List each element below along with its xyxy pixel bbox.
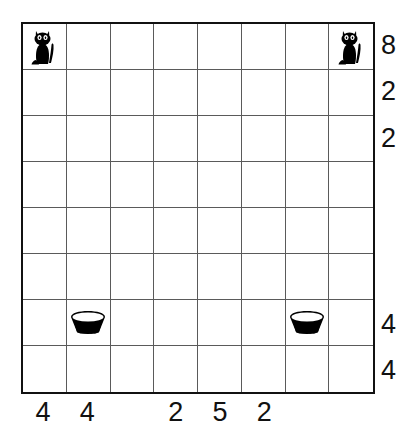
grid-cell-r7-c4[interactable] bbox=[154, 300, 198, 346]
bowl-icon bbox=[286, 300, 329, 345]
grid-cell-r3-c7[interactable] bbox=[286, 116, 330, 162]
grid-cell-r5-c7[interactable] bbox=[286, 208, 330, 254]
grid-cell-r8-c6[interactable] bbox=[242, 346, 286, 392]
row-clue-4 bbox=[377, 162, 417, 209]
grid-cell-r2-c5[interactable] bbox=[198, 70, 242, 116]
column-clue-list: 44252 bbox=[21, 396, 375, 440]
row-clue-list: 82244 bbox=[377, 22, 417, 394]
grid-cell-r4-c1[interactable] bbox=[23, 162, 67, 208]
puzzle-grid bbox=[21, 22, 375, 394]
grid-cell-r1-c4[interactable] bbox=[154, 24, 198, 70]
grid-cell-r7-c1[interactable] bbox=[23, 300, 67, 346]
grid-cell-r8-c3[interactable] bbox=[111, 346, 155, 392]
grid-cell-r8-c7[interactable] bbox=[286, 346, 330, 392]
grid-cell-r6-c2[interactable] bbox=[67, 254, 111, 300]
grid-cell-r7-c8[interactable] bbox=[329, 300, 373, 346]
grid-cell-r4-c4[interactable] bbox=[154, 162, 198, 208]
grid-cell-r4-c2[interactable] bbox=[67, 162, 111, 208]
grid-cell-r6-c5[interactable] bbox=[198, 254, 242, 300]
grid-cell-r8-c5[interactable] bbox=[198, 346, 242, 392]
grid-cell-r6-c7[interactable] bbox=[286, 254, 330, 300]
grid-cell-r6-c8[interactable] bbox=[329, 254, 373, 300]
grid-cell-r5-c8[interactable] bbox=[329, 208, 373, 254]
grid-cell-r5-c2[interactable] bbox=[67, 208, 111, 254]
grid-cell-r4-c5[interactable] bbox=[198, 162, 242, 208]
grid-cell-r2-c7[interactable] bbox=[286, 70, 330, 116]
grid-cell-r2-c1[interactable] bbox=[23, 70, 67, 116]
grid-cell-r8-c4[interactable] bbox=[154, 346, 198, 392]
grid-cell-r7-c6[interactable] bbox=[242, 300, 286, 346]
grid-cell-r3-c6[interactable] bbox=[242, 116, 286, 162]
grid-cell-r5-c3[interactable] bbox=[111, 208, 155, 254]
column-clue-1: 4 bbox=[21, 396, 65, 440]
grid-cell-r2-c2[interactable] bbox=[67, 70, 111, 116]
grid-cell-r1-c3[interactable] bbox=[111, 24, 155, 70]
grid-cell-r5-c5[interactable] bbox=[198, 208, 242, 254]
grid-cell-r7-c2[interactable] bbox=[67, 300, 111, 346]
grid-cell-r1-c5[interactable] bbox=[198, 24, 242, 70]
grid-cell-r5-c6[interactable] bbox=[242, 208, 286, 254]
puzzle-diagram: 82244 44252 bbox=[0, 0, 419, 447]
row-clue-5 bbox=[377, 208, 417, 255]
grid-cell-r3-c8[interactable] bbox=[329, 116, 373, 162]
grid-cell-r3-c5[interactable] bbox=[198, 116, 242, 162]
row-clue-6 bbox=[377, 255, 417, 302]
grid-cell-r3-c1[interactable] bbox=[23, 116, 67, 162]
bowl-icon bbox=[67, 300, 110, 345]
grid-cell-r6-c3[interactable] bbox=[111, 254, 155, 300]
row-clue-2: 2 bbox=[377, 69, 417, 116]
column-clue-2: 4 bbox=[65, 396, 109, 440]
grid-cell-r2-c4[interactable] bbox=[154, 70, 198, 116]
grid-cell-r7-c3[interactable] bbox=[111, 300, 155, 346]
column-clue-6: 2 bbox=[242, 396, 286, 440]
grid-cell-r2-c6[interactable] bbox=[242, 70, 286, 116]
grid-cell-r3-c2[interactable] bbox=[67, 116, 111, 162]
grid-cell-r4-c3[interactable] bbox=[111, 162, 155, 208]
grid-cell-r1-c7[interactable] bbox=[286, 24, 330, 70]
grid-cell-r2-c8[interactable] bbox=[329, 70, 373, 116]
grid-cell-r3-c4[interactable] bbox=[154, 116, 198, 162]
grid-cell-r6-c6[interactable] bbox=[242, 254, 286, 300]
grid-cell-r6-c1[interactable] bbox=[23, 254, 67, 300]
row-clue-1: 8 bbox=[377, 22, 417, 69]
grid-cell-r7-c7[interactable] bbox=[286, 300, 330, 346]
grid-cell-r4-c7[interactable] bbox=[286, 162, 330, 208]
column-clue-7 bbox=[287, 396, 331, 440]
column-clue-5: 5 bbox=[198, 396, 242, 440]
grid-cell-r1-c2[interactable] bbox=[67, 24, 111, 70]
grid-cell-r1-c8[interactable] bbox=[329, 24, 373, 70]
grid-cell-r5-c1[interactable] bbox=[23, 208, 67, 254]
grid-cell-r5-c4[interactable] bbox=[154, 208, 198, 254]
grid-cell-r8-c1[interactable] bbox=[23, 346, 67, 392]
grid-cell-r4-c8[interactable] bbox=[329, 162, 373, 208]
column-clue-8 bbox=[331, 396, 375, 440]
grid-cell-r4-c6[interactable] bbox=[242, 162, 286, 208]
grid-cell-r1-c6[interactable] bbox=[242, 24, 286, 70]
row-clue-8: 4 bbox=[377, 348, 417, 395]
grid-cell-r6-c4[interactable] bbox=[154, 254, 198, 300]
grid-cell-r3-c3[interactable] bbox=[111, 116, 155, 162]
grid-cell-r1-c1[interactable] bbox=[23, 24, 67, 70]
column-clue-4: 2 bbox=[154, 396, 198, 440]
row-clue-3: 2 bbox=[377, 115, 417, 162]
cat-icon bbox=[329, 24, 373, 69]
grid-cell-r8-c8[interactable] bbox=[329, 346, 373, 392]
grid-cell-r7-c5[interactable] bbox=[198, 300, 242, 346]
cat-icon bbox=[23, 24, 66, 69]
grid-cell-r8-c2[interactable] bbox=[67, 346, 111, 392]
grid-cell-r2-c3[interactable] bbox=[111, 70, 155, 116]
column-clue-3 bbox=[110, 396, 154, 440]
row-clue-7: 4 bbox=[377, 301, 417, 348]
